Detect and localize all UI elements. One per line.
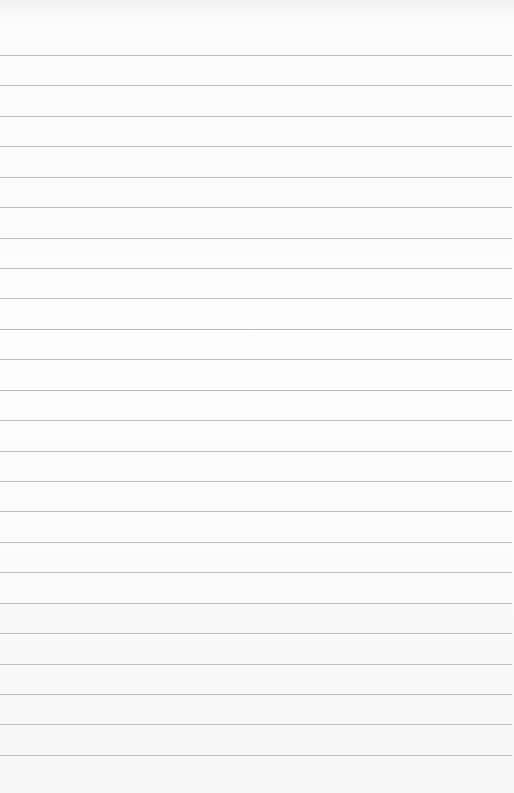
ruled-line bbox=[0, 55, 512, 56]
ruled-line bbox=[0, 359, 512, 360]
ruled-line bbox=[0, 116, 512, 117]
ruled-line bbox=[0, 542, 512, 543]
ruled-line bbox=[0, 572, 512, 573]
ruled-line bbox=[0, 755, 512, 756]
ruled-line bbox=[0, 481, 512, 482]
ruled-line bbox=[0, 724, 512, 725]
ruled-line bbox=[0, 451, 512, 452]
ruled-line bbox=[0, 238, 512, 239]
ruled-line bbox=[0, 633, 512, 634]
ruled-line bbox=[0, 329, 512, 330]
ruled-line bbox=[0, 420, 512, 421]
ruled-line bbox=[0, 603, 512, 604]
ruled-line bbox=[0, 177, 512, 178]
ruled-line bbox=[0, 268, 512, 269]
ruled-line bbox=[0, 511, 512, 512]
ruled-line bbox=[0, 146, 512, 147]
ruled-line bbox=[0, 85, 512, 86]
ruled-line bbox=[0, 207, 512, 208]
lined-paper-sheet bbox=[0, 0, 514, 793]
ruled-line bbox=[0, 694, 512, 695]
ruled-line bbox=[0, 664, 512, 665]
ruled-line bbox=[0, 298, 512, 299]
ruled-line bbox=[0, 390, 512, 391]
